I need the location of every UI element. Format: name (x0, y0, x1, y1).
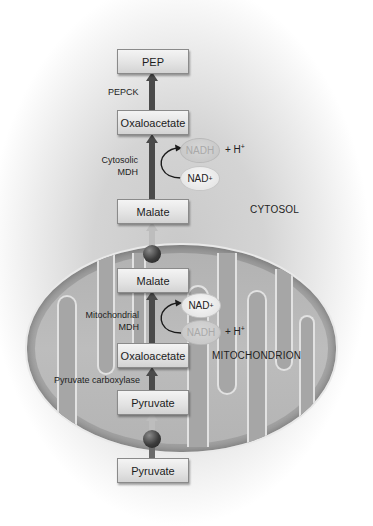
mitochondrial-nad-oval: NAD+ (181, 293, 221, 318)
arrow-oaa-to-pep (149, 80, 155, 110)
mitochondrial-oxaloacetate-box: Oxaloacetate (117, 343, 189, 368)
pyruvate-carboxylase-label: Pyruvate carboxylase (54, 374, 140, 386)
nad-label: NAD (188, 300, 209, 311)
nad-label: NAD (187, 173, 208, 184)
nad-sup: + (209, 175, 213, 182)
h-plus-sup: + (241, 325, 245, 332)
pepck-label: PEPCK (108, 86, 139, 98)
pyruvate-transporter-icon (143, 430, 161, 448)
pep-box: PEP (117, 49, 189, 74)
mitochondrial-pyruvate-box: Pyruvate (117, 390, 189, 415)
crista (299, 315, 315, 427)
h-plus-label: + H (225, 326, 241, 337)
cytosolic-malate-box: Malate (117, 199, 189, 224)
malate-label: Malate (136, 206, 169, 218)
h-plus-sup: + (241, 143, 245, 150)
mitochondrial-mdh-label: Mitochondrial MDH (79, 309, 139, 333)
arrow-head-icon (146, 134, 158, 143)
crista (217, 253, 237, 395)
mitochondrial-malate-box: Malate (117, 268, 189, 293)
arrow-pyruvate-to-oaa (149, 375, 155, 390)
cytosol-label: CYTOSOL (250, 204, 299, 215)
mitochondrion-label: MITOCHONDRION (212, 350, 301, 361)
oxaloacetate-label: Oxaloacetate (121, 117, 186, 129)
nadh-label: NADH (186, 145, 214, 156)
mitochondrial-h-plus: + H+ (225, 325, 245, 337)
nad-sup: + (210, 302, 214, 309)
nadh-label: NADH (187, 327, 215, 338)
mitochondrial-mdh-line1: Mitochondrial (79, 309, 139, 321)
cytosolic-pyruvate-box: Pyruvate (117, 458, 189, 483)
cytosolic-mdh-line2: MDH (98, 166, 138, 178)
mitochondrial-nadh-oval: NADH (181, 320, 221, 345)
cytosolic-nad-oval: NAD+ (180, 166, 220, 191)
cytosolic-h-plus: + H+ (225, 143, 245, 155)
crista (247, 290, 267, 447)
h-plus-label: + H (225, 144, 241, 155)
malate-transporter-icon (143, 245, 161, 263)
oxaloacetate-label: Oxaloacetate (121, 350, 186, 362)
pyruvate-label: Pyruvate (131, 465, 174, 477)
cytosolic-mdh-label: Cytosolic MDH (98, 154, 138, 178)
crista (57, 295, 77, 447)
pyruvate-label: Pyruvate (131, 397, 174, 409)
cytosolic-mdh-line1: Cytosolic (98, 154, 138, 166)
arrow-head-icon (146, 367, 158, 376)
pep-label: PEP (142, 56, 164, 68)
malate-label: Malate (136, 275, 169, 287)
cytosolic-nadh-oval: NADH (180, 138, 220, 163)
cytosolic-oxaloacetate-box: Oxaloacetate (117, 110, 189, 135)
mitochondrial-mdh-line2: MDH (79, 321, 139, 333)
